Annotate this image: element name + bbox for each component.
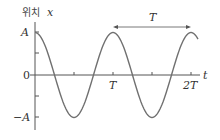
arrow-left-head: [113, 25, 118, 29]
y-tick-label-zero: 0: [23, 69, 30, 82]
y-axis-label-korean: 위치: [22, 6, 40, 18]
y-tick-label-neg-a: −A: [13, 111, 30, 124]
y-tick-label-a: A: [20, 26, 29, 39]
period-label: T: [149, 11, 158, 24]
x-tick-label-2t: 2T: [182, 79, 199, 92]
oscillation-diagram: 위치 x t T A 0 −A T 2T: [0, 0, 220, 140]
x-tick-label-t: T: [109, 79, 118, 92]
y-axis-label-var: x: [47, 6, 54, 19]
arrow-right-head: [186, 25, 191, 29]
x-axis-label: t: [203, 69, 208, 82]
